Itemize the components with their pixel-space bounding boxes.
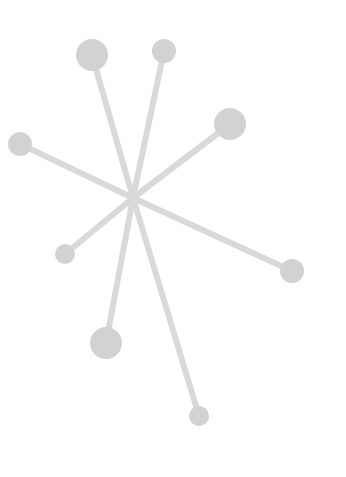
spoke-stick-6 (133, 198, 292, 271)
spoke-ball-2 (152, 39, 176, 63)
spoke-ball-7 (90, 327, 122, 359)
spoke-ball-8 (189, 406, 209, 426)
spoke-stick-4 (20, 144, 133, 198)
spoke-sticks (20, 51, 292, 416)
spoke-stick-8 (133, 198, 199, 416)
spoke-ball-4 (8, 132, 32, 156)
molecule-star-icon (0, 0, 346, 477)
spoke-ball-1 (76, 39, 108, 71)
spoke-ball-6 (280, 259, 304, 283)
spoke-stick-1 (92, 55, 133, 198)
spoke-ball-5 (55, 244, 75, 264)
spoke-ball-3 (214, 108, 246, 140)
